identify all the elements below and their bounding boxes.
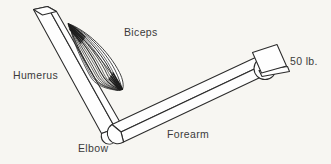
biceps-lever-figure: Humerus Biceps Elbow Forearm 50 lb. bbox=[0, 0, 331, 164]
label-weight-value: 50 lb. bbox=[290, 56, 318, 67]
label-elbow: Elbow bbox=[78, 143, 108, 154]
forearm-top-face bbox=[112, 57, 266, 132]
anatomy-diagram bbox=[0, 0, 331, 164]
label-forearm: Forearm bbox=[167, 129, 209, 140]
label-biceps: Biceps bbox=[124, 27, 158, 38]
label-humerus: Humerus bbox=[13, 70, 58, 81]
